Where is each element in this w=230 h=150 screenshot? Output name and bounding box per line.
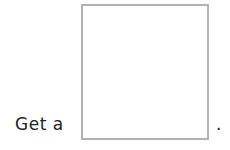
answer-box[interactable] (81, 4, 209, 140)
prompt-text: Get a (15, 114, 64, 134)
period: . (216, 114, 221, 134)
